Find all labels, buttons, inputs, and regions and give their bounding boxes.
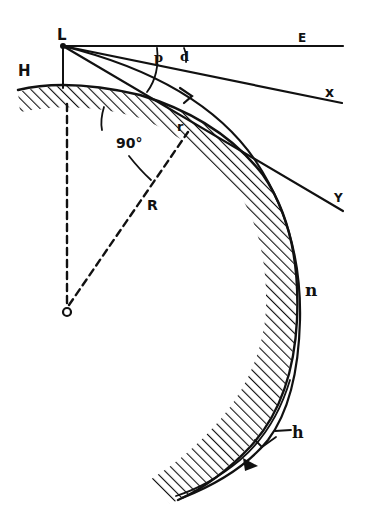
refraction-diagram: L E x Y H p d r 90° R O n h [0,0,366,524]
label-h-height: H [18,62,31,80]
label-e: E [298,31,306,45]
label-r: r [177,119,184,134]
angle-arc-90 [101,107,104,130]
label-h-small: h [292,423,304,442]
label-n: n [305,280,317,300]
label-90-degrees: 90° [116,135,142,151]
label-radius-r: R [147,197,158,213]
label-l: L [57,26,67,44]
earth-center-o [63,308,71,316]
label-y: Y [333,191,343,205]
tangent-line-y [63,46,343,211]
label-d: d [180,49,189,64]
label-o: O [0,0,1,1]
dashed-radius-r [69,132,188,305]
label-p: p [154,50,163,65]
label-x: x [325,84,334,100]
bottom-arrow-icon [243,458,258,471]
